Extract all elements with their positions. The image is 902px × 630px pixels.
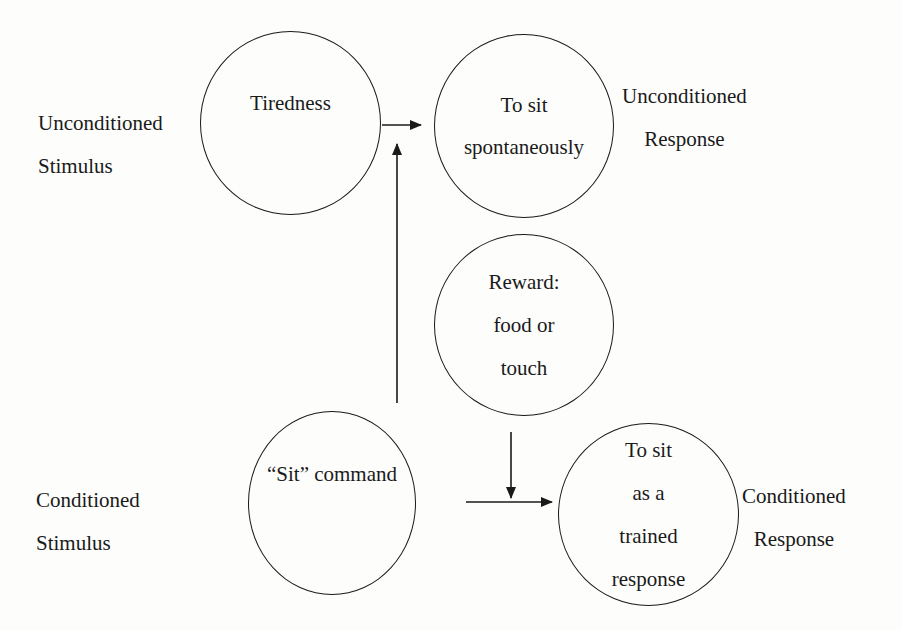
node-sit-spontaneously: To sit spontaneously	[434, 34, 614, 218]
label-conditioned-response: Conditioned Response	[742, 475, 846, 561]
node-tiredness: Tiredness	[200, 31, 381, 215]
label-unconditioned-response: Unconditioned Response	[622, 75, 747, 161]
node-sit-trained: To sit as a trained response	[558, 423, 739, 606]
label-conditioned-stimulus: Conditioned Stimulus	[36, 479, 140, 565]
label-unconditioned-stimulus: Unconditioned Stimulus	[38, 102, 163, 188]
node-sit-command: “Sit” command	[248, 411, 416, 595]
node-reward: Reward: food or touch	[434, 234, 614, 416]
